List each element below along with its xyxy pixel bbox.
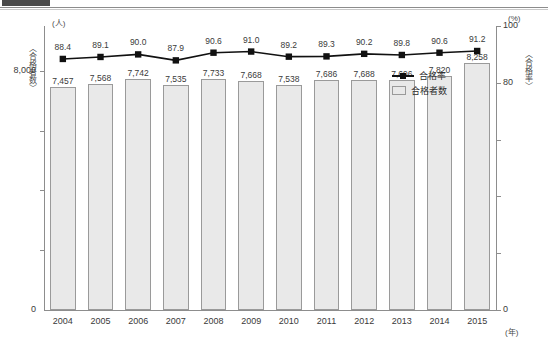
legend-item-count[interactable]: 合格者数 bbox=[392, 83, 447, 98]
line-marker bbox=[248, 48, 254, 54]
legend-label-count: 合格者数 bbox=[411, 84, 447, 97]
line-marker bbox=[474, 48, 480, 54]
x-axis-tick-label: 2015 bbox=[457, 316, 497, 326]
x-axis-tick-label: 2009 bbox=[231, 316, 271, 326]
line-series-layer bbox=[0, 0, 548, 342]
line-path bbox=[63, 51, 477, 60]
line-marker bbox=[97, 54, 103, 60]
x-axis-tick-label: 2005 bbox=[81, 316, 121, 326]
line-value-label: 90.0 bbox=[120, 37, 156, 47]
line-value-label: 90.2 bbox=[346, 37, 382, 47]
x-axis-tick-label: 2012 bbox=[344, 316, 384, 326]
line-marker bbox=[323, 53, 329, 59]
line-marker bbox=[361, 51, 367, 57]
line-marker bbox=[135, 51, 141, 57]
line-marker bbox=[399, 52, 405, 58]
line-marker-icon bbox=[392, 71, 414, 80]
chart-legend: 合格率 合格者数 bbox=[392, 68, 447, 98]
line-value-label: 89.2 bbox=[271, 40, 307, 50]
x-axis-tick-label: 2014 bbox=[420, 316, 460, 326]
x-axis-tick-label: 2007 bbox=[156, 316, 196, 326]
line-value-label: 91.0 bbox=[233, 35, 269, 45]
x-axis-tick-label: 2013 bbox=[382, 316, 422, 326]
line-value-label: 87.9 bbox=[158, 43, 194, 53]
line-marker bbox=[436, 49, 442, 55]
bar-swatch-icon bbox=[392, 86, 406, 95]
legend-item-rate[interactable]: 合格率 bbox=[392, 68, 447, 83]
x-axis-tick-label: 2008 bbox=[194, 316, 234, 326]
line-marker bbox=[210, 49, 216, 55]
line-marker bbox=[60, 56, 66, 62]
x-axis-tick-label: 2004 bbox=[43, 316, 83, 326]
x-axis-tick-label: 2006 bbox=[118, 316, 158, 326]
line-value-label: 89.8 bbox=[384, 38, 420, 48]
line-value-label: 89.3 bbox=[309, 39, 345, 49]
line-value-label: 89.1 bbox=[83, 40, 119, 50]
line-value-label: 91.2 bbox=[459, 34, 495, 44]
legend-label-rate: 合格率 bbox=[419, 69, 446, 82]
line-value-label: 90.6 bbox=[422, 36, 458, 46]
line-value-label: 90.6 bbox=[196, 36, 232, 46]
x-axis-tick-label: 2011 bbox=[307, 316, 347, 326]
line-marker bbox=[173, 57, 179, 63]
x-axis-tick-label: 2010 bbox=[269, 316, 309, 326]
line-value-label: 88.4 bbox=[45, 42, 81, 52]
line-marker bbox=[286, 53, 292, 59]
